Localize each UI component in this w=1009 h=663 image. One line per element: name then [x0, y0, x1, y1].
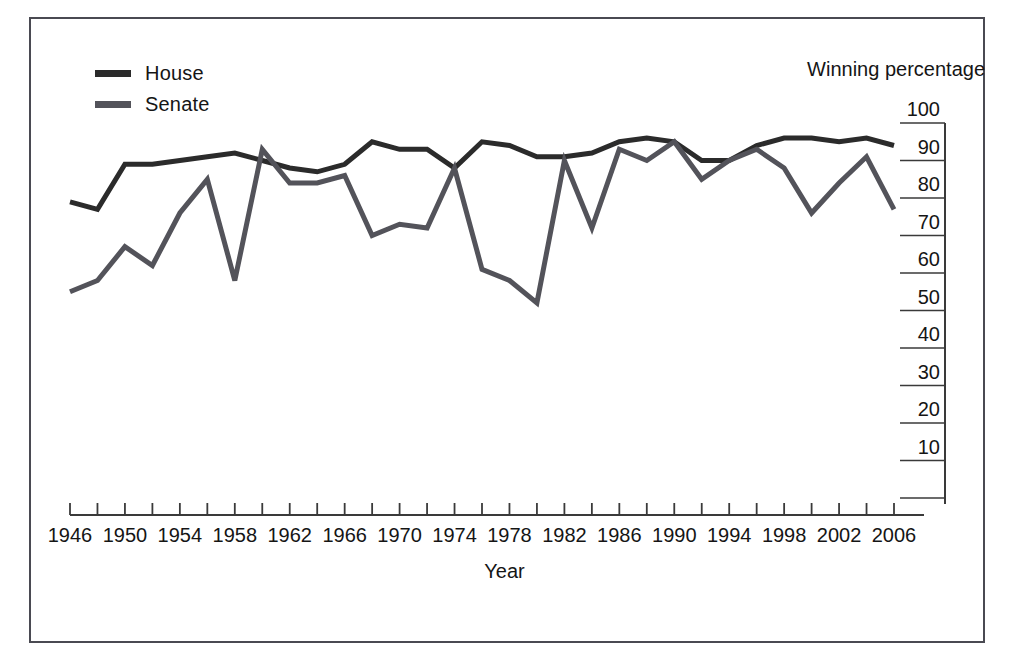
y-tick-label-70: 70 — [894, 211, 940, 234]
x-tick-label-1978: 1978 — [481, 524, 537, 547]
y-tick-label-90: 90 — [894, 136, 940, 159]
y-tick-label-20: 20 — [894, 398, 940, 421]
x-tick-label-1998: 1998 — [756, 524, 812, 547]
x-tick-label-2006: 2006 — [866, 524, 922, 547]
x-tick-label-1970: 1970 — [372, 524, 428, 547]
x-tick-label-1982: 1982 — [536, 524, 592, 547]
x-tick-label-1966: 1966 — [317, 524, 373, 547]
y-tick-label-10: 10 — [894, 436, 940, 459]
x-tick-label-1962: 1962 — [262, 524, 318, 547]
series-line-senate — [70, 142, 894, 303]
x-tick-label-1974: 1974 — [427, 524, 483, 547]
x-tick-label-1958: 1958 — [207, 524, 263, 547]
y-tick-label-100: 100 — [894, 98, 940, 121]
x-axis — [70, 503, 924, 515]
series-lines — [70, 138, 894, 303]
y-tick-label-30: 30 — [894, 361, 940, 384]
y-tick-label-80: 80 — [894, 173, 940, 196]
x-tick-label-1954: 1954 — [152, 524, 208, 547]
x-tick-label-1946: 1946 — [42, 524, 98, 547]
chart-page: House Senate Winning percentage Year 100… — [0, 0, 1009, 663]
x-tick-label-1950: 1950 — [97, 524, 153, 547]
x-tick-label-1986: 1986 — [591, 524, 647, 547]
x-tick-label-1990: 1990 — [646, 524, 702, 547]
x-tick-label-1994: 1994 — [701, 524, 757, 547]
y-tick-label-40: 40 — [894, 323, 940, 346]
y-tick-label-60: 60 — [894, 248, 940, 271]
chart-plot-area — [0, 0, 1009, 663]
y-tick-label-50: 50 — [894, 286, 940, 309]
x-tick-label-2002: 2002 — [811, 524, 867, 547]
